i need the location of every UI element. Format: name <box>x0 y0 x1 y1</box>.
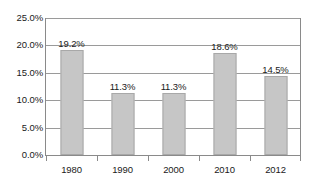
y-axis-tick-label: 5.0% <box>0 123 43 133</box>
bar-2000[interactable] <box>162 93 185 155</box>
y-axis-tick-label: 0.0% <box>0 150 43 160</box>
bar-chart: 25.0% 20.0% 15.0% 10.0% 5.0% 0.0% 19.2% … <box>0 0 315 188</box>
bar-value-label: 14.5% <box>262 64 288 75</box>
bar-slot: 18.6% <box>199 18 250 155</box>
gridline-baseline <box>46 155 301 156</box>
bar-value-label: 11.3% <box>110 81 136 92</box>
x-axis-tick <box>250 156 251 161</box>
x-axis: 1980 1990 2000 2010 2012 <box>46 164 301 180</box>
bar-2012[interactable] <box>264 76 287 156</box>
x-axis-tick <box>199 156 200 161</box>
y-axis-tick-label: 15.0% <box>0 68 43 78</box>
bar-1990[interactable] <box>111 93 134 155</box>
bars-layer: 19.2% 11.3% 11.3% 18.6% 14.5% <box>46 18 301 155</box>
bar-slot: 11.3% <box>97 18 148 155</box>
bar-slot: 11.3% <box>148 18 199 155</box>
x-axis-category-label: 1980 <box>46 164 97 176</box>
x-axis-category-label: 2010 <box>199 164 250 176</box>
x-axis-tick <box>300 156 301 161</box>
x-axis-tick <box>46 156 47 161</box>
bar-value-label: 18.6% <box>211 41 237 52</box>
y-axis-tick-label: 10.0% <box>0 95 43 105</box>
y-axis-tick-label: 25.0% <box>0 13 43 23</box>
bar-value-label: 11.3% <box>161 81 187 92</box>
bar-slot: 14.5% <box>250 18 301 155</box>
x-axis-category-label: 2000 <box>148 164 199 176</box>
bar-1980[interactable] <box>60 50 83 155</box>
x-axis-tick <box>97 156 98 161</box>
bar-slot: 19.2% <box>46 18 97 155</box>
y-axis-tick-label: 20.0% <box>0 40 43 50</box>
x-axis-category-label: 1990 <box>97 164 148 176</box>
bar-2010[interactable] <box>213 53 236 155</box>
x-axis-tick <box>148 156 149 161</box>
x-axis-category-label: 2012 <box>250 164 301 176</box>
bar-value-label: 19.2% <box>58 38 84 49</box>
y-axis: 25.0% 20.0% 15.0% 10.0% 5.0% 0.0% <box>0 0 43 188</box>
